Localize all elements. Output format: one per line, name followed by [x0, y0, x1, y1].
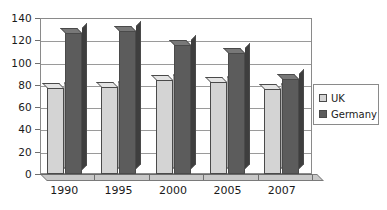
y-axis-tick-label: 20	[18, 146, 32, 158]
legend-label-uk: UK	[331, 93, 345, 104]
x-axis-tick-label: 2005	[213, 184, 241, 197]
x-axis-tick-label: 1990	[50, 184, 78, 197]
bar-germany-2007	[282, 79, 299, 174]
bar-uk-2005	[210, 82, 227, 174]
chart-floor	[40, 174, 324, 181]
bar-uk-2007	[264, 89, 281, 174]
bar-germany-1990	[65, 33, 82, 175]
bars-layer	[40, 18, 312, 174]
x-axis-tick-label: 1995	[105, 184, 133, 197]
bar-uk-2000	[156, 80, 173, 174]
y-axis-tick-label: 0	[25, 168, 32, 180]
bar-front-face	[264, 89, 281, 174]
y-axis-tick-label: 60	[18, 101, 32, 113]
legend-item-uk: UK	[319, 90, 378, 106]
y-axis-tick-label: 80	[18, 79, 32, 91]
bar-front-face	[228, 53, 245, 174]
bar-side-face	[245, 43, 250, 169]
legend-item-germany: Germany	[319, 106, 378, 122]
x-axis-tick-mark	[312, 175, 313, 180]
bar-front-face	[156, 80, 173, 174]
legend-swatch-uk	[319, 94, 327, 102]
x-axis-tick-mark	[258, 175, 259, 180]
legend-swatch-germany	[319, 110, 327, 118]
y-axis-tick-label: 120	[11, 34, 32, 46]
y-axis-tick-label: 140	[11, 12, 32, 24]
bar-front-face	[210, 82, 227, 174]
x-axis-tick-mark	[203, 175, 204, 180]
legend-label-germany: Germany	[331, 109, 377, 120]
y-axis-tick-label: 40	[18, 123, 32, 135]
bar-uk-1990	[47, 88, 64, 174]
bar-side-face	[191, 35, 196, 169]
bar-side-face	[299, 69, 304, 169]
bar-front-face	[47, 88, 64, 174]
x-axis-tick-mark	[94, 175, 95, 180]
bar-germany-1995	[119, 31, 136, 174]
bar-chart: 020406080100120140 19901995200020052007 …	[0, 0, 387, 210]
x-axis-tick-mark	[149, 175, 150, 180]
bar-germany-2000	[174, 45, 191, 174]
x-axis-tick-label: 2007	[268, 184, 296, 197]
x-axis-tick-label: 2000	[159, 184, 187, 197]
bar-germany-2005	[228, 53, 245, 174]
bar-front-face	[101, 87, 118, 174]
x-axis-line	[40, 174, 312, 175]
bar-front-face	[174, 45, 191, 174]
bar-uk-1995	[101, 87, 118, 174]
bar-side-face	[82, 23, 87, 170]
y-axis-tick-label: 100	[11, 57, 32, 69]
bar-side-face	[136, 21, 141, 169]
bar-front-face	[65, 33, 82, 175]
bar-front-face	[282, 79, 299, 174]
chart-legend: UK Germany	[313, 84, 379, 125]
bar-front-face	[119, 31, 136, 174]
y-axis: 020406080100120140	[0, 18, 40, 175]
